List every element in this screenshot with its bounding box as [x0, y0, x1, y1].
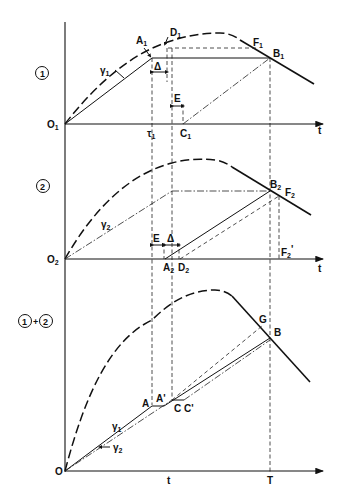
- label-gamma2-sum: γ2: [113, 442, 123, 454]
- label-D2: D2: [178, 262, 189, 274]
- panel-1: 1 O1 t A1 D1 F1 B1 γ1 Δ E: [36, 22, 324, 140]
- label-O2: O2: [47, 254, 59, 266]
- label-A: A: [142, 398, 149, 409]
- label-F2: F2: [285, 187, 295, 199]
- panel-1-C1-B1-line: [183, 58, 270, 124]
- label-B1: B1: [273, 48, 284, 60]
- panel-2-D2-F2-line: [180, 196, 279, 259]
- label-gamma2: γ2: [101, 219, 111, 231]
- label-E-1: E: [174, 93, 181, 104]
- panel-sum-Aprime-B-line: [164, 338, 270, 406]
- label-C: C: [174, 403, 181, 414]
- panel-sum-Cprime-B-line: [184, 340, 270, 400]
- label-t: t: [167, 475, 171, 486]
- panel-2-dashed-curve: [65, 159, 232, 259]
- panel-1-gamma1-leader: [115, 70, 124, 78]
- label-C1: C1: [180, 128, 191, 140]
- label-t-2: t: [318, 263, 322, 274]
- label-Aprime: A': [156, 393, 166, 404]
- label-gamma1-1: γ1: [100, 65, 110, 77]
- label-A1: A1: [136, 35, 147, 47]
- panel-1-gamma1-line: [65, 58, 152, 124]
- label-T: T: [267, 475, 273, 486]
- panel-2-tag: 2: [40, 182, 45, 192]
- panel-sum-tag-2: 2: [43, 317, 48, 327]
- label-t-1: t: [318, 125, 322, 136]
- panel-sum-gamma1-line: [65, 406, 152, 471]
- panel-sum-G-line: [172, 326, 262, 400]
- label-Cprime: C': [184, 403, 194, 414]
- label-gamma1-sum: γ1: [112, 421, 122, 433]
- label-F2-prime: F2': [281, 244, 293, 259]
- label-B2: B2: [270, 179, 281, 191]
- label-B: B: [274, 327, 281, 338]
- label-E-2: E: [153, 233, 160, 244]
- label-D1: D1: [170, 27, 181, 39]
- panel-2-gamma2-line: [65, 191, 172, 259]
- panel-sum-solid-curve: [232, 296, 310, 382]
- panel-2: 2 O2 t B2 F2 γ2 E Δ A2 D2 F2': [37, 125, 324, 274]
- panel-1-solid-curve: [240, 40, 314, 84]
- label-F1: F1: [253, 37, 263, 49]
- label-G: G: [259, 314, 267, 325]
- panel-1-dashed-curve: [65, 33, 240, 124]
- panel-1-tag: 1: [40, 69, 45, 79]
- vertical-guides: [152, 48, 270, 472]
- label-O: O: [55, 466, 63, 477]
- panel-sum-dashed-curve: [65, 290, 232, 471]
- diagram-canvas: 1 O1 t A1 D1 F1 B1 γ1 Δ E: [0, 0, 342, 504]
- panel-2-A2-B2-line: [165, 191, 270, 259]
- label-A2: A2: [163, 262, 174, 274]
- label-O1: O1: [47, 119, 59, 131]
- label-tau1: τ1: [147, 128, 155, 140]
- panel-sum-tag-plus: +: [33, 317, 38, 327]
- panel-sum-tag-1: 1: [22, 317, 27, 327]
- label-delta-2: Δ: [167, 233, 174, 244]
- panel-sum-gamma2-line: [65, 400, 172, 471]
- label-delta-1: Δ: [154, 61, 161, 72]
- panel-sum: 1 + 2 O t T G B A A' C C' γ1 γ2: [19, 260, 324, 486]
